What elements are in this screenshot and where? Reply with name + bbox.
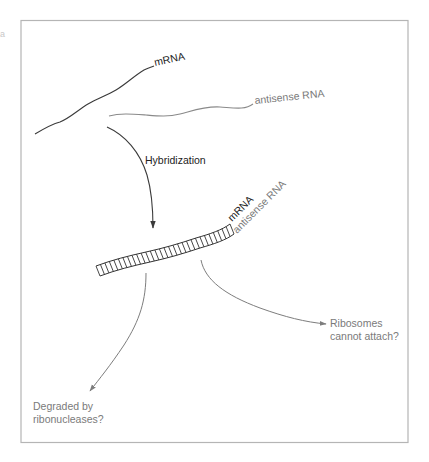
base-pair-rung — [178, 244, 182, 254]
rna-duplex — [96, 224, 234, 276]
base-pair-rung — [100, 264, 104, 274]
degradation-outcome-line1: Degraded by — [33, 400, 94, 412]
base-pair-rung — [191, 240, 195, 250]
base-pair-rung — [200, 237, 204, 247]
base-pair-rung — [209, 234, 213, 244]
base-pair-rung — [132, 255, 136, 265]
base-pair-rung — [105, 263, 109, 273]
panel-letter: a — [0, 29, 5, 39]
base-pair-rung — [222, 229, 226, 239]
ribosome-outcome-line2: cannot attach? — [330, 330, 399, 342]
base-pair-rung — [213, 232, 217, 242]
degradation-outcome-arrow — [90, 273, 146, 391]
base-pair-rung — [204, 235, 208, 245]
antisense-rna-diagram: a mRNA antisense RNA Hybridization mRNA … — [0, 0, 429, 462]
base-pair-rung — [137, 254, 141, 264]
base-pair-rung — [127, 256, 131, 266]
base-pair-rung — [182, 243, 186, 253]
mrna-strand — [35, 66, 154, 134]
base-pair-rung — [155, 250, 159, 260]
base-pair-rung — [150, 251, 154, 261]
base-pair-rung — [195, 238, 199, 248]
base-pair-rung — [141, 253, 145, 263]
base-pair-rung — [168, 246, 172, 256]
base-pair-rung — [159, 249, 163, 259]
base-pair-rung — [186, 241, 190, 251]
base-pair-rung — [123, 258, 127, 268]
hybridization-label: Hybridization — [145, 154, 206, 166]
base-pair-rung — [118, 259, 122, 269]
ribosome-outcome-arrow — [201, 260, 326, 324]
base-pair-rung — [226, 227, 230, 237]
base-pair-rung — [173, 245, 177, 255]
degradation-outcome-line2: ribonucleases? — [33, 413, 104, 425]
base-pair-rung — [164, 248, 168, 258]
ribosome-outcome-line1: Ribosomes — [330, 317, 383, 329]
hybridization-arrow — [107, 127, 153, 228]
base-pair-rung — [146, 252, 150, 262]
antisense-strand — [109, 104, 253, 116]
base-pair-rung — [109, 261, 113, 271]
mrna-label: mRNA — [153, 50, 186, 68]
base-pair-rung — [96, 266, 100, 276]
base-pair-rung — [114, 260, 118, 270]
antisense-label: antisense RNA — [254, 87, 325, 106]
base-pair-rung — [218, 231, 222, 241]
